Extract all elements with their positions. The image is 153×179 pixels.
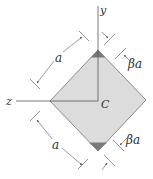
lower-beta-ext-2: [104, 155, 115, 166]
z-axis-label: z: [5, 95, 12, 108]
lower-a-dim-line-2: [62, 148, 82, 165]
upper-beta-arrow-1: [102, 32, 108, 38]
upper-a-ext-2: [79, 31, 89, 41]
centroid-label: C: [101, 98, 110, 111]
y-axis-label: y: [99, 4, 107, 17]
upper-cut-label: βa: [127, 57, 142, 71]
lower-beta-ext-1: [113, 140, 124, 151]
upper-side-label: a: [55, 51, 62, 65]
lower-a-ext-2: [78, 159, 88, 169]
square-cross-section-diagram: y z C a a βa βa: [0, 0, 153, 179]
upper-beta-ext-2: [115, 48, 126, 59]
upper-a-dim-line-1: [37, 61, 54, 83]
lower-side-label: a: [52, 138, 59, 152]
lower-a-ext-1: [30, 111, 40, 121]
lower-a-dim-line-1: [37, 120, 52, 139]
lower-cut-label: βa: [125, 133, 140, 147]
upper-a-ext-1: [30, 79, 40, 89]
bottom-cut-triangle: [89, 143, 107, 152]
upper-a-dim-line-2: [63, 37, 82, 52]
lower-beta-arrow-2: [102, 163, 107, 170]
